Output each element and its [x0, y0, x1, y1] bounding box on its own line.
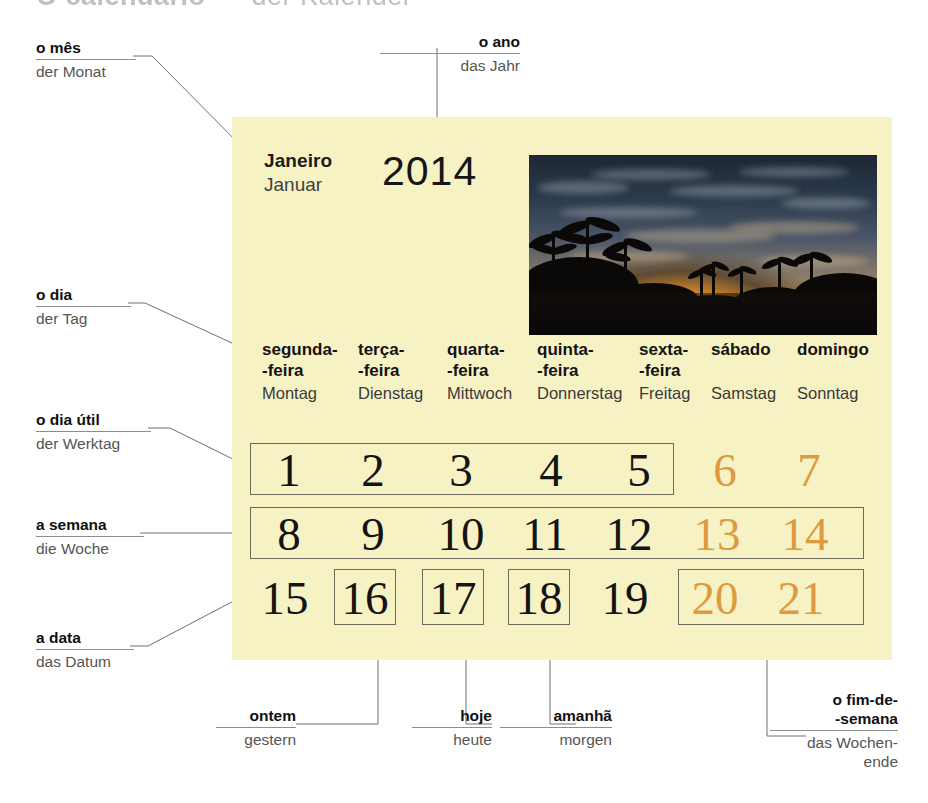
weekday-header-monday: segunda- -feira Montag: [262, 339, 356, 403]
calendar-month-pt: Janeiro: [264, 150, 332, 172]
annotation-week: a semana die Woche: [36, 515, 144, 558]
calendar-month-de: Januar: [264, 174, 322, 196]
annotation-weekend-pt: o fim-de- -semana: [770, 690, 898, 731]
weekday-pt: quinta- -feira: [537, 339, 635, 381]
annotation-month: o mês der Monat: [36, 38, 136, 81]
annotation-year: o ano das Jahr: [380, 32, 520, 75]
weekday-pt: terça- -feira: [358, 339, 444, 381]
day-cell[interactable]: 12: [598, 503, 660, 565]
weekday-de: Donnerstag: [537, 383, 635, 403]
day-cell[interactable]: 7: [778, 439, 840, 501]
day-cell[interactable]: 3: [430, 439, 492, 501]
annotation-weekday: o dia útil der Werktag: [36, 410, 151, 453]
weekday-pt: domingo: [797, 339, 885, 360]
day-cell[interactable]: 2: [342, 439, 404, 501]
annotation-date-de: das Datum: [36, 650, 134, 671]
annotation-month-pt: o mês: [36, 38, 136, 60]
weekday-de: Freitag: [639, 383, 709, 403]
weekday-de: Dienstag: [358, 383, 444, 403]
day-cell[interactable]: 14: [774, 503, 836, 565]
day-cell[interactable]: 20: [684, 567, 746, 629]
page-title: O calendárioder Kalender: [36, 0, 412, 12]
weekday-pt: segunda- -feira: [262, 339, 356, 381]
annotation-day-de: der Tag: [36, 307, 131, 328]
annotation-weekend-de: das Wochen- ende: [770, 731, 898, 771]
annotation-yesterday-de: gestern: [216, 728, 296, 749]
photo-horizon: [529, 293, 877, 335]
page-title-pt: O calendário: [36, 0, 206, 11]
annotation-today-de: heute: [412, 728, 492, 749]
day-cell[interactable]: 13: [686, 503, 748, 565]
weekday-de: Sonntag: [797, 383, 885, 403]
annotation-week-de: die Woche: [36, 537, 144, 558]
day-cell[interactable]: 18: [508, 567, 570, 629]
weekday-header-thursday: quinta- -feira Donnerstag: [537, 339, 635, 403]
annotation-weekday-de: der Werktag: [36, 432, 151, 453]
day-cell[interactable]: 11: [514, 503, 576, 565]
weekday-pt: sexta- -feira: [639, 339, 709, 381]
annotation-year-pt: o ano: [380, 32, 520, 54]
day-cell[interactable]: 17: [422, 567, 484, 629]
day-cell[interactable]: 15: [254, 567, 316, 629]
week-row-3: 15 16 17 18 19 20 21: [246, 567, 886, 629]
annotation-weekday-pt: o dia útil: [36, 410, 151, 432]
annotation-month-de: der Monat: [36, 60, 136, 81]
page-title-de: der Kalender: [252, 0, 413, 11]
weekday-header-row: segunda- -feira Montag terça- -feira Die…: [262, 339, 887, 417]
annotation-tomorrow: amanhã morgen: [500, 706, 612, 749]
week-row-2: 8 9 10 11 12 13 14: [246, 503, 886, 565]
annotation-yesterday: ontem gestern: [216, 706, 296, 749]
weekday-de: Montag: [262, 383, 356, 403]
day-cell[interactable]: 1: [258, 439, 320, 501]
day-cell[interactable]: 10: [430, 503, 492, 565]
photo-cloud: [781, 197, 871, 209]
week-row-1: 1 2 3 4 5 6 7: [246, 439, 886, 501]
day-cell[interactable]: 9: [342, 503, 404, 565]
photo-cloud: [669, 185, 799, 197]
day-cell[interactable]: 5: [608, 439, 670, 501]
annotation-yesterday-pt: ontem: [216, 706, 296, 728]
day-cell[interactable]: 16: [334, 567, 396, 629]
annotation-date: a data das Datum: [36, 628, 134, 671]
calendar-panel: Janeiro Januar 2014: [232, 117, 892, 660]
photo-cloud: [537, 181, 629, 194]
photo-cloud: [739, 167, 849, 177]
page-title-strip: O calendárioder Kalender: [0, 0, 928, 14]
annotation-day-pt: o dia: [36, 285, 131, 307]
annotation-year-de: das Jahr: [380, 54, 520, 75]
annotation-day: o dia der Tag: [36, 285, 131, 328]
day-cell[interactable]: 6: [694, 439, 756, 501]
weekday-de: Samstag: [711, 383, 795, 403]
weekday-header-tuesday: terça- -feira Dienstag: [358, 339, 444, 403]
sunset-palm-trees-photo: [529, 155, 877, 335]
weekday-header-saturday: sábado Samstag: [711, 339, 795, 403]
annotation-today-pt: hoje: [412, 706, 492, 728]
day-cell[interactable]: 4: [520, 439, 582, 501]
weekday-de: Mittwoch: [447, 383, 535, 403]
annotation-today: hoje heute: [412, 706, 492, 749]
weekday-header-sunday: domingo Sonntag: [797, 339, 885, 403]
day-cell[interactable]: 21: [770, 567, 832, 629]
day-number-grid: 1 2 3 4 5 6 7 8 9 10 11 12 13 14 15 16: [246, 439, 886, 639]
day-cell[interactable]: 8: [258, 503, 320, 565]
annotation-week-pt: a semana: [36, 515, 144, 537]
photo-cloud: [559, 207, 699, 218]
photo-cloud: [591, 169, 711, 180]
annotation-tomorrow-de: morgen: [500, 728, 612, 749]
annotation-weekend: o fim-de- -semana das Wochen- ende: [770, 690, 898, 771]
calendar-year: 2014: [382, 148, 477, 195]
weekday-pt: quarta- -feira: [447, 339, 535, 381]
annotation-date-pt: a data: [36, 628, 134, 650]
weekday-header-wednesday: quarta- -feira Mittwoch: [447, 339, 535, 403]
annotation-tomorrow-pt: amanhã: [500, 706, 612, 728]
weekday-pt: sábado: [711, 339, 795, 360]
day-cell[interactable]: 19: [594, 567, 656, 629]
photo-cloud: [729, 221, 859, 234]
weekday-header-friday: sexta- -feira Freitag: [639, 339, 709, 403]
